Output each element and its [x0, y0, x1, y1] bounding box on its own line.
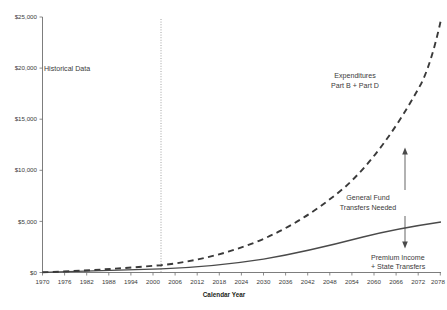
- annotation-premium-income: Premium Income + State Transfers: [371, 254, 426, 272]
- x-tick-label-13: 2048: [323, 278, 337, 285]
- y-tick-label-3: $15,000: [15, 115, 38, 122]
- y-axis-ticks: $0 $5,000 $10,000 $15,000 $20,000 $25,00…: [15, 13, 43, 276]
- x-tick-label-10: 2030: [257, 278, 271, 285]
- annotation-general-fund-transfers: General Fund Transfers Needed: [340, 148, 408, 249]
- x-axis-ticks: 1970 1976 1982 1988 1994 2000 2006 2012 …: [36, 273, 446, 286]
- series-line-expenditures: [43, 20, 442, 273]
- x-axis-title: Calendar Year: [203, 291, 246, 298]
- annotation-general-fund-line-0: General Fund: [346, 194, 389, 202]
- y-tick-label-2: $10,000: [15, 166, 38, 173]
- annotation-historical-data-line-0: Historical Data: [44, 65, 90, 73]
- annotation-expenditures: Expenditures Part B + Part D: [331, 72, 379, 90]
- x-tick-label-7: 2012: [190, 278, 204, 285]
- x-tick-label-15: 2060: [367, 278, 381, 285]
- axes: [43, 17, 442, 273]
- general-fund-arrow-up-head: [402, 148, 408, 155]
- x-tick-label-9: 2024: [235, 278, 249, 285]
- x-tick-label-6: 2006: [168, 278, 182, 285]
- x-tick-label-11: 2036: [279, 278, 293, 285]
- x-tick-label-0: 1970: [36, 278, 50, 285]
- x-tick-label-1: 1976: [58, 278, 72, 285]
- annotation-expenditures-line-0: Expenditures: [334, 72, 376, 80]
- annotation-premium-income-line-1: + State Transfers: [371, 263, 426, 271]
- x-tick-label-3: 1988: [102, 278, 116, 285]
- general-fund-arrow-down-head: [402, 242, 408, 249]
- y-tick-label-4: $20,000: [15, 64, 38, 71]
- annotation-premium-income-line-0: Premium Income: [371, 254, 425, 262]
- x-tick-label-18: 2078: [431, 278, 445, 285]
- chart-container: $0 $5,000 $10,000 $15,000 $20,000 $25,00…: [0, 0, 447, 310]
- annotation-expenditures-line-1: Part B + Part D: [331, 82, 379, 90]
- x-tick-label-4: 1994: [124, 278, 138, 285]
- y-tick-label-0: $0: [30, 269, 37, 276]
- annotation-historical-data: Historical Data: [44, 65, 90, 73]
- annotation-general-fund-line-1: Transfers Needed: [340, 204, 397, 212]
- x-tick-label-5: 2000: [146, 278, 160, 285]
- x-tick-label-16: 2066: [389, 278, 403, 285]
- x-tick-label-8: 2018: [212, 278, 226, 285]
- x-tick-label-12: 2042: [301, 278, 315, 285]
- chart-canvas: $0 $5,000 $10,000 $15,000 $20,000 $25,00…: [0, 0, 447, 310]
- x-tick-label-17: 2072: [411, 278, 425, 285]
- y-tick-label-5: $25,000: [15, 13, 38, 20]
- y-tick-label-1: $5,000: [18, 218, 37, 225]
- x-tick-label-14: 2054: [345, 278, 359, 285]
- x-tick-label-2: 1982: [80, 278, 94, 285]
